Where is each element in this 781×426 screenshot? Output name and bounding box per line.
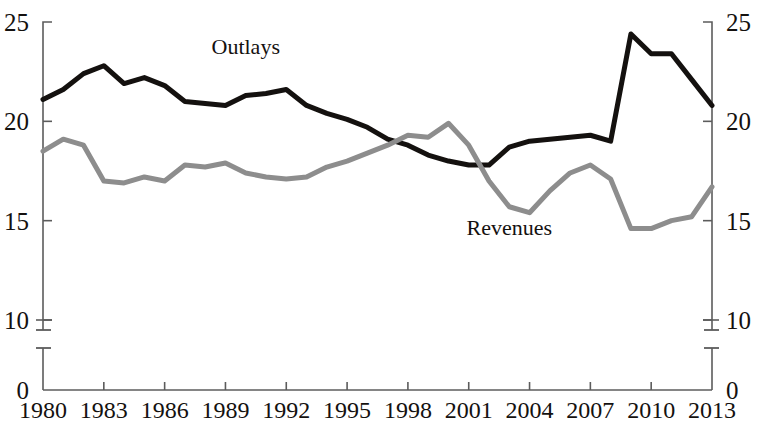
y-axis-right-line xyxy=(703,22,712,390)
series-annotation-outlays: Outlays xyxy=(212,34,280,59)
x-axis-label-1995: 1995 xyxy=(323,397,371,423)
x-axis-label-1998: 1998 xyxy=(384,397,432,423)
y-axis-left-break-mark xyxy=(36,330,51,348)
y-axis-right-label-20: 20 xyxy=(726,108,751,135)
y-axis-left: 252015100 xyxy=(4,9,52,404)
series-annotation-revenues: Revenues xyxy=(467,215,553,240)
y-axis-left-label-20: 20 xyxy=(4,108,29,135)
y-axis-right-label-25: 25 xyxy=(726,9,751,36)
x-axis-label-1992: 1992 xyxy=(262,397,310,423)
x-axis-label-1986: 1986 xyxy=(141,397,189,423)
y-axis-left-line xyxy=(43,22,52,390)
y-axis-left-label-25: 25 xyxy=(4,9,29,36)
x-axis-label-1989: 1989 xyxy=(201,397,249,423)
y-axis-right: 252015100 xyxy=(703,9,751,404)
data-series-group xyxy=(43,34,712,229)
x-axis-ticks xyxy=(104,382,651,390)
y-axis-left-label-15: 15 xyxy=(4,208,29,235)
y-axis-left-label-10: 10 xyxy=(4,307,29,334)
x-axis: 1980198319861989199219951998200120042007… xyxy=(19,382,736,423)
series-line-outlays xyxy=(43,34,712,165)
x-axis-label-2013: 2013 xyxy=(688,397,736,423)
x-axis-label-2004: 2004 xyxy=(506,397,554,423)
x-axis-label-2001: 2001 xyxy=(445,397,493,423)
y-axis-right-label-15: 15 xyxy=(726,208,751,235)
x-axis-label-2010: 2010 xyxy=(627,397,675,423)
y-axis-right-labels: 252015100 xyxy=(726,9,751,404)
y-axis-right-ticks xyxy=(703,121,719,320)
y-axis-right-label-10: 10 xyxy=(726,307,751,334)
revenues-outlays-line-chart: 252015100 252015100 19801983198619891992… xyxy=(0,0,781,426)
x-axis-label-1980: 1980 xyxy=(19,397,67,423)
chart-container: 252015100 252015100 19801983198619891992… xyxy=(0,0,781,426)
x-axis-labels: 1980198319861989199219951998200120042007… xyxy=(19,397,736,423)
y-axis-right-break-mark xyxy=(704,330,719,348)
y-axis-left-labels: 252015100 xyxy=(4,9,29,404)
x-axis-label-2007: 2007 xyxy=(566,397,614,423)
x-axis-label-1983: 1983 xyxy=(80,397,128,423)
